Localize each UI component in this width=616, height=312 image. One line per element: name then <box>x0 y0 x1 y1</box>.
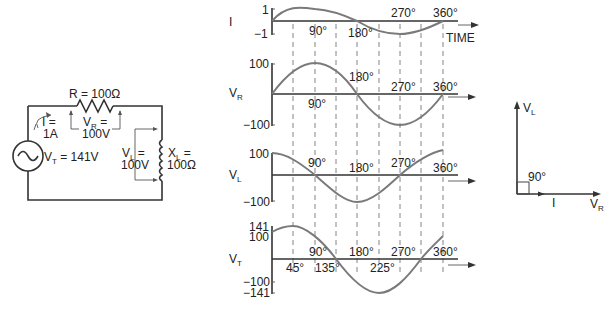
phasor-vl-label: VL <box>523 101 536 117</box>
i-waveform-plot: I 1 −1 90° 180° 270° 360° TIME <box>229 3 479 45</box>
wire-bottom <box>28 171 162 200</box>
sine-icon <box>18 152 38 161</box>
vt-ymin: −141 <box>243 286 270 300</box>
vl-plot-name: VL <box>229 168 242 184</box>
i-ymin: −1 <box>254 27 268 41</box>
vr-deg-270: 270° <box>391 80 416 94</box>
resistor-label: R = 100Ω <box>69 87 120 101</box>
phasor-i-label: I <box>552 196 555 210</box>
vt-y100: 100 <box>249 230 269 244</box>
vr-deg-90: 90° <box>308 97 326 111</box>
i-ymax: 1 <box>262 3 269 17</box>
vt-deg-225: 225° <box>370 261 395 275</box>
ac-rl-diagram: R = 100Ω I = 1A VR = 100V VT = 141V VL =… <box>0 0 616 312</box>
vr-deg-180: 180° <box>349 70 374 84</box>
vt-axis-arrow-icon <box>468 262 476 268</box>
resistor-symbol <box>77 100 113 112</box>
phasor-angle-label: 90° <box>528 170 546 184</box>
vt-deg-360: 360° <box>433 245 458 259</box>
i-deg-90: 90° <box>309 24 327 38</box>
i-deg-180: 180° <box>348 26 373 40</box>
i-deg-360: 360° <box>433 6 458 20</box>
vr-axis-arrow-icon <box>468 94 476 100</box>
vr-plot-name: VR <box>229 86 243 102</box>
vl-cosine-curve <box>272 150 443 202</box>
vl-waveform-plot: VL 100 −100 90° 180° 270° 360° <box>229 147 476 209</box>
xl-value: 100Ω <box>167 158 196 172</box>
vt-waveform-plot: VT 141 100 −100 −141 45° 90° 135° 180° 2… <box>229 220 476 300</box>
vl-deg-180: 180° <box>349 161 374 175</box>
vl-value: 100V <box>121 158 149 172</box>
i-phasor-arrow-icon <box>538 192 545 197</box>
vt-deg-180: 180° <box>349 245 374 259</box>
phasor-vr-label: VR <box>590 197 604 213</box>
vr-ymax: 100 <box>249 57 269 71</box>
inductor-symbol <box>160 140 163 181</box>
vr-value: 100V <box>82 127 110 141</box>
i-plot-name: I <box>229 15 232 29</box>
vt-plot-name: VT <box>229 252 242 268</box>
degree-gridlines <box>293 24 443 272</box>
vt-deg-45: 45° <box>286 261 304 275</box>
current-label-2: 1A <box>43 127 58 141</box>
vl-deg-270: 270° <box>391 156 416 170</box>
vt-deg-270: 270° <box>391 245 416 259</box>
vl-ymax: 100 <box>249 147 269 161</box>
vl-axis-arrow-icon <box>468 178 476 184</box>
vr-deg-360: 360° <box>433 80 458 94</box>
rl-circuit: R = 100Ω I = 1A VR = 100V VT = 141V VL =… <box>13 87 196 200</box>
time-label: TIME <box>446 31 475 45</box>
i-deg-270: 270° <box>391 6 416 20</box>
vr-waveform-plot: VR 100 −100 90° 180° 270° 360° <box>229 57 476 132</box>
vt-label: VT = 141V <box>44 150 99 166</box>
vl-ymin: −100 <box>243 195 270 209</box>
phasor-diagram: VL 90° I VR <box>514 101 604 213</box>
vl-phasor-arrow-icon <box>514 101 520 109</box>
vl-deg-360: 360° <box>433 161 458 175</box>
vt-deg-135: 135° <box>315 261 340 275</box>
vt-deg-90: 90° <box>309 245 327 259</box>
vr-ymin: −100 <box>243 118 270 132</box>
vl-deg-90: 90° <box>308 156 326 170</box>
time-arrow-icon <box>471 22 479 28</box>
